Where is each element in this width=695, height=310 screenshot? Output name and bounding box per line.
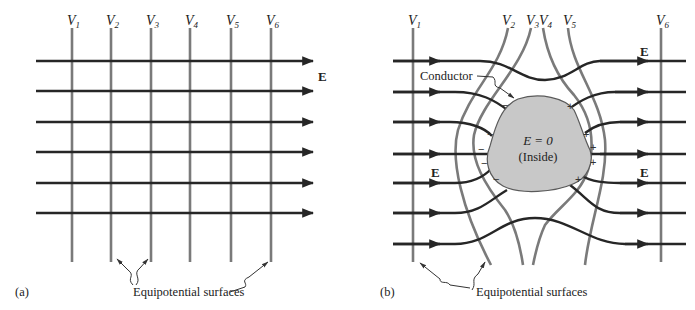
inside-field-label: E = 0 — [522, 133, 553, 148]
equipotential-caption-b: Equipotential surfaces — [476, 285, 588, 299]
electric-field-figure: V1 V2 V3 V4 V5 V6 E Equipotential surfac… — [0, 0, 695, 310]
v5-label-b: V5 — [563, 13, 577, 30]
v3-label-b: V3 — [526, 13, 540, 30]
v5-label-a: V5 — [226, 13, 240, 30]
negative-charge: − — [487, 128, 493, 140]
positive-charge: + — [567, 100, 573, 112]
v4-label-b: V4 — [539, 13, 553, 30]
positive-charge: + — [590, 141, 596, 153]
negative-charge: − — [478, 143, 484, 155]
negative-charge: − — [481, 157, 487, 169]
positive-charge: + — [590, 156, 596, 168]
equipotential-lines-a — [72, 28, 271, 262]
positive-charge: + — [575, 173, 581, 185]
negative-charge: − — [502, 99, 508, 111]
panel-label-a: (a) — [15, 285, 29, 299]
field-label-b-right: E — [640, 165, 649, 180]
equipotential-caption-a: Equipotential surfaces — [133, 285, 245, 299]
v2-label-a: V2 — [106, 13, 120, 30]
potential-labels-b: V1 V2 V3 V4 V5 V6 — [408, 13, 670, 30]
field-label-a: E — [318, 69, 327, 84]
positive-charge: + — [583, 128, 589, 140]
inside-note-label: (Inside) — [519, 150, 558, 164]
field-label-b-top: E — [640, 44, 649, 59]
v6-label-b: V6 — [656, 13, 670, 30]
negative-charge: − — [493, 173, 499, 185]
panel-a: V1 V2 V3 V4 V5 V6 E Equipotential surfac… — [15, 13, 327, 299]
panel-b: − − − − − + + + + + E = 0 (Inside) Condu… — [380, 13, 686, 299]
panel-label-b: (b) — [380, 285, 395, 299]
v6-label-a: V6 — [266, 13, 280, 30]
v1-label-b: V1 — [408, 13, 421, 30]
field-label-b-left: E — [431, 165, 440, 180]
conductor-label: Conductor — [420, 69, 474, 83]
v4-label-a: V4 — [185, 13, 199, 30]
v2-label-b: V2 — [502, 13, 516, 30]
v1-label-a: V1 — [67, 13, 80, 30]
v3-label-a: V3 — [146, 13, 160, 30]
potential-labels-a: V1 V2 V3 V4 V5 V6 — [67, 13, 280, 30]
